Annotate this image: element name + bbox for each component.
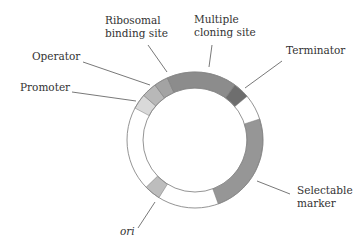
plasmid-ring (127, 72, 263, 208)
label-ori: ori (120, 225, 135, 238)
label-line: marker (297, 197, 353, 210)
label-line: Ribosomal (105, 14, 168, 27)
label-line: Multiple (194, 13, 256, 26)
label-line: Selectable (297, 184, 353, 197)
label-ribosomal-binding-site: Ribosomal binding site (105, 14, 168, 40)
leader-line-rbs (148, 45, 167, 72)
leader-line-operator (83, 62, 150, 85)
leader-line-selectable (257, 181, 290, 194)
label-multiple-cloning-site: Multiple cloning site (194, 13, 256, 39)
leader-line-terminator (245, 61, 282, 88)
ring-inner-edge (143, 88, 247, 192)
label-promoter: Promoter (20, 81, 70, 94)
label-operator: Operator (32, 50, 80, 63)
label-line: binding site (105, 27, 168, 40)
label-line: cloning site (194, 26, 256, 39)
leader-line-ori (138, 202, 155, 228)
segment-selectable-marker (213, 119, 263, 204)
label-selectable-marker: Selectable marker (297, 184, 353, 210)
segment-multiple-cloning-site (167, 72, 235, 98)
label-terminator: Terminator (286, 44, 345, 57)
leader-line-promoter (72, 92, 136, 101)
leader-line-mcs (209, 45, 212, 67)
